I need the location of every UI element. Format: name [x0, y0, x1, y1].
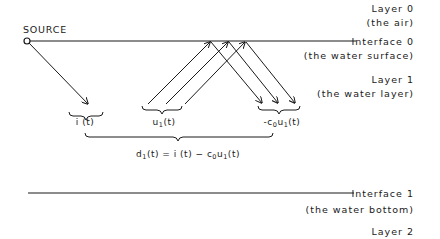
upgoing-brace [142, 106, 182, 114]
upgoing-label: u1(t) [153, 117, 176, 131]
layer-1-name: Layer 1 [371, 74, 414, 85]
downgoing-equation: d1(t) = i (t) − c0u1(t) [136, 149, 240, 163]
reflected-label: -c0u1(t) [264, 117, 301, 131]
layer-0-desc: (the air) [367, 17, 414, 28]
interface-1-desc: (the water bottom) [306, 204, 414, 215]
downgoing-brace [85, 133, 273, 141]
incident-arrow [29, 43, 88, 104]
layer-2-name: Layer 2 [371, 226, 414, 237]
interface-0-desc: (the water surface) [304, 50, 414, 61]
layer-0-name: Layer 0 [371, 3, 414, 14]
interface-0-name: Interface 0 [351, 36, 414, 47]
reflected-brace [258, 106, 300, 114]
source-label: SOURCE [23, 24, 67, 35]
interface-1-name: Interface 1 [351, 188, 414, 199]
incident-label: i (t) [76, 117, 94, 128]
layer-1-desc: (the water layer) [317, 88, 414, 99]
upgoing-arrows [148, 42, 245, 104]
reflected-arrows [211, 42, 295, 103]
